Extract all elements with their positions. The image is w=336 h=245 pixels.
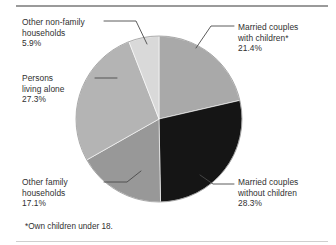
bottom-divider-rule — [16, 241, 328, 242]
callout-value: 5.9% — [22, 38, 85, 49]
callout-persons-living-alone: Persons living alone 27.3% — [22, 73, 65, 105]
callout-label-line1: Other non-family — [22, 17, 85, 28]
callout-other-non-family-households: Other non-family households 5.9% — [22, 17, 85, 49]
callout-label-line1: Married couples — [238, 22, 298, 33]
callout-value: 17.1% — [22, 198, 68, 209]
callout-label-line2: households — [22, 188, 68, 199]
callout-value: 28.3% — [238, 198, 298, 209]
callout-label-line1: Persons — [22, 73, 65, 84]
callout-value: 27.3% — [22, 94, 65, 105]
callout-label-line1: Other family — [22, 177, 68, 188]
callout-label-line2: with children* — [238, 33, 298, 44]
callout-other-family-households: Other family households 17.1% — [22, 177, 68, 209]
callout-label-line1: Married couples — [238, 177, 298, 188]
callout-married-with-children: Married couples with children* 21.4% — [238, 22, 298, 54]
callout-label-line2: without children — [238, 188, 298, 199]
leader-line-married-with-children — [196, 26, 234, 48]
callout-value: 21.4% — [238, 43, 298, 54]
pie-slices — [76, 36, 242, 202]
pie-chart-figure: Other non-family households 5.9% Married… — [0, 0, 336, 245]
chart-footnote: *Own children under 18. — [25, 222, 113, 232]
callout-label-line2: households — [22, 28, 85, 39]
callout-label-line2: living alone — [22, 84, 65, 95]
callout-married-without-children: Married couples without children 28.3% — [238, 177, 298, 209]
